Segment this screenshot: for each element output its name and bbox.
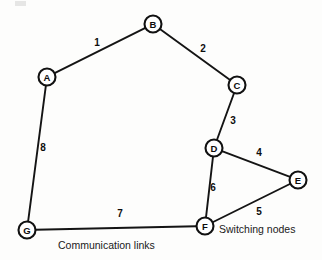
node-label-c: C bbox=[234, 80, 241, 91]
node-g[interactable]: G bbox=[19, 222, 36, 239]
node-a[interactable]: A bbox=[39, 69, 56, 86]
edge-e-f bbox=[213, 184, 291, 222]
node-c[interactable]: C bbox=[229, 77, 246, 94]
caption-communication-links: Communication links bbox=[58, 239, 155, 251]
node-e[interactable]: E bbox=[290, 172, 307, 189]
node-b[interactable]: B bbox=[145, 16, 162, 33]
edge-a-b bbox=[55, 28, 146, 73]
node-label-e: E bbox=[295, 175, 301, 186]
edge-a-g bbox=[28, 85, 46, 221]
nodes-layer: ABCDEFG bbox=[19, 16, 307, 239]
edges-layer bbox=[28, 28, 290, 230]
edge-label-1: 1 bbox=[94, 37, 100, 48]
edge-b-c bbox=[160, 29, 230, 80]
edge-label-4: 4 bbox=[256, 147, 262, 158]
node-label-d: D bbox=[211, 143, 218, 154]
edge-label-7: 7 bbox=[117, 208, 123, 219]
edge-label-6: 6 bbox=[210, 182, 216, 193]
node-label-g: G bbox=[23, 225, 30, 236]
edge-label-8: 8 bbox=[40, 142, 46, 153]
node-d[interactable]: D bbox=[206, 140, 223, 157]
node-label-f: F bbox=[202, 221, 208, 232]
network-graph-canvas: ABCDEFG 12345678 Communication linksSwit… bbox=[0, 0, 322, 260]
edge-label-2: 2 bbox=[200, 43, 206, 54]
network-diagram: ABCDEFG 12345678 Communication linksSwit… bbox=[0, 0, 322, 260]
node-label-b: B bbox=[150, 19, 157, 30]
node-label-a: A bbox=[44, 72, 51, 83]
caption-switching-nodes: Switching nodes bbox=[219, 223, 295, 235]
node-f[interactable]: F bbox=[197, 218, 214, 235]
edge-label-3: 3 bbox=[230, 115, 236, 126]
edge-g-f bbox=[36, 226, 197, 230]
edge-label-5: 5 bbox=[256, 206, 262, 217]
